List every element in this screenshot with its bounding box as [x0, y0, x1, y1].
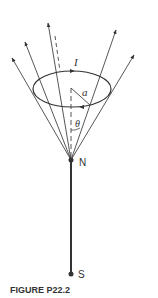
field-line	[25, 42, 71, 160]
radius-label: a	[82, 86, 88, 98]
south-label: S	[78, 269, 85, 280]
current-arrow-icon	[79, 105, 84, 109]
angle-label: θ	[75, 118, 80, 129]
north-label: N	[79, 157, 86, 168]
figure-caption: FIGURE P22.2	[10, 285, 70, 295]
field-lines	[12, 23, 134, 160]
magnet-field-diagram: I a θ N S FIGURE P22.2	[0, 0, 158, 298]
axis-dashed-upper	[55, 36, 60, 71]
south-pole-dot	[69, 272, 74, 277]
north-pole-dot	[69, 158, 74, 163]
current-label: I	[73, 56, 79, 68]
current-arrow-icon	[70, 69, 75, 73]
